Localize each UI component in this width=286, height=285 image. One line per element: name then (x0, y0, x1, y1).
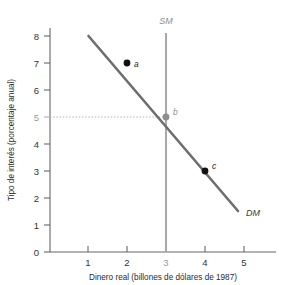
x-tick-label-3: 3 (163, 257, 168, 268)
chart-canvas: 0 1 2 3 4 5 6 7 8 1 2 3 4 5 SM (0, 0, 286, 285)
y-axis-tick-labels: 0 1 2 3 4 5 6 7 8 (34, 31, 39, 258)
y-tick-label-4: 4 (34, 139, 39, 150)
x-tick-label-2: 2 (124, 257, 129, 268)
point-marker-c (202, 168, 209, 175)
y-tick-label-2: 2 (34, 193, 39, 204)
x-tick-label-1: 1 (85, 257, 90, 268)
y-tick-label-3: 3 (34, 166, 39, 177)
point-label-a: a (134, 59, 139, 69)
point-label-b: b (173, 107, 178, 117)
x-axis-tick-labels: 1 2 3 4 5 (85, 257, 246, 268)
x-axis-title: Dinero real (billones de dólares de 1987… (89, 273, 237, 282)
money-demand-line-dm (89, 36, 239, 211)
money-supply-label-sm: SM (159, 16, 173, 26)
annotation-point-b: b (163, 107, 178, 121)
annotation-point-c: c (202, 161, 217, 175)
x-tick-label-5: 5 (241, 257, 246, 268)
point-label-c: c (212, 161, 217, 171)
annotation-point-a: a (124, 59, 139, 69)
point-marker-a (124, 60, 131, 67)
y-tick-label-8: 8 (34, 31, 39, 42)
y-axis-ticks (44, 36, 50, 252)
y-tick-label-1: 1 (34, 220, 39, 231)
x-tick-label-4: 4 (202, 257, 207, 268)
axes-group (50, 28, 276, 252)
y-axis-title: Tipo de interés (porcentaje anual) (7, 79, 16, 201)
y-tick-label-5: 5 (34, 112, 39, 123)
money-demand-label-dm: DM (246, 208, 260, 218)
money-market-chart-figure: 0 1 2 3 4 5 6 7 8 1 2 3 4 5 SM (0, 0, 286, 285)
point-marker-b (163, 114, 170, 121)
y-tick-label-7: 7 (34, 58, 39, 69)
y-tick-label-6: 6 (34, 85, 39, 96)
y-tick-label-0: 0 (34, 247, 39, 258)
